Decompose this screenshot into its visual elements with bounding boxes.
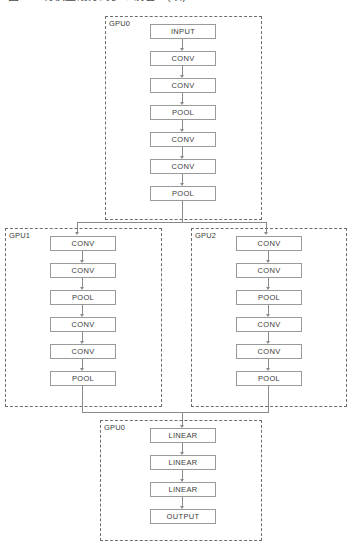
connector-arrow <box>182 39 183 48</box>
connector-arrowhead <box>180 506 184 509</box>
connector-arrowhead <box>180 156 184 159</box>
connector-arrowhead <box>80 368 84 371</box>
layer-node-conv[interactable]: CONV <box>50 317 116 332</box>
layer-node-conv[interactable]: CONV <box>236 317 302 332</box>
layer-node-pool[interactable]: POOL <box>150 186 216 201</box>
layer-node-linear[interactable]: LINEAR <box>150 428 216 443</box>
layer-node-conv[interactable]: CONV <box>150 132 216 147</box>
connector-arrowhead <box>180 75 184 78</box>
connector-arrow <box>182 120 183 129</box>
connector-arrowhead <box>266 341 270 344</box>
layer-node-input[interactable]: INPUT <box>150 24 216 39</box>
connector-arrowhead <box>180 102 184 105</box>
layer-node-conv[interactable]: CONV <box>150 159 216 174</box>
connector-arrow <box>182 174 183 183</box>
connector-arrow <box>182 66 183 75</box>
figure-caption-text: 图 7-7 将模型划分到多个设备上(续) <box>8 0 186 3</box>
layer-node-conv[interactable]: CONV <box>50 236 116 251</box>
layer-node-conv[interactable]: CONV <box>50 344 116 359</box>
connector-arrowhead <box>266 368 270 371</box>
connector-arrowhead <box>266 314 270 317</box>
layer-node-conv[interactable]: CONV <box>50 263 116 278</box>
connector-arrow <box>182 443 183 452</box>
connector-arrow <box>82 332 83 341</box>
connector-arrow <box>82 359 83 368</box>
connector-arrow <box>82 305 83 314</box>
layer-node-pool[interactable]: POOL <box>50 290 116 305</box>
gpu-group-label: GPU2 <box>195 231 216 240</box>
connector-merge-left <box>82 386 83 412</box>
connector-arrow <box>182 497 183 506</box>
connector-split-stem <box>182 201 183 222</box>
connector-arrowhead <box>80 341 84 344</box>
gpu-group-label: GPU0 <box>104 423 125 432</box>
layer-node-output[interactable]: OUTPUT <box>150 509 216 524</box>
connector-arrow <box>182 93 183 102</box>
layer-node-linear[interactable]: LINEAR <box>150 482 216 497</box>
layer-node-conv[interactable]: CONV <box>150 51 216 66</box>
gpu-group-label: GPU1 <box>9 231 30 240</box>
connector-merge-right <box>268 386 269 412</box>
connector-arrowhead <box>80 287 84 290</box>
connector-split-bus <box>77 222 266 223</box>
diagram-canvas: 图 7-7 将模型划分到多个设备上(续) GPU0 INPUT CONV CON… <box>0 0 353 550</box>
connector-arrowhead <box>266 287 270 290</box>
connector-arrowhead <box>180 48 184 51</box>
layer-node-pool[interactable]: POOL <box>150 105 216 120</box>
connector-arrowhead <box>80 314 84 317</box>
layer-node-linear[interactable]: LINEAR <box>150 455 216 470</box>
layer-node-conv[interactable]: CONV <box>236 344 302 359</box>
gpu-group-label: GPU0 <box>109 19 130 28</box>
layer-node-conv[interactable]: CONV <box>150 78 216 93</box>
connector-arrow <box>268 251 269 260</box>
connector-merge-bus <box>82 412 269 413</box>
connector-arrowhead <box>180 452 184 455</box>
layer-node-pool[interactable]: POOL <box>236 371 302 386</box>
connector-arrow <box>182 470 183 479</box>
connector-arrowhead <box>266 260 270 263</box>
layer-node-conv[interactable]: CONV <box>236 263 302 278</box>
connector-arrow <box>268 359 269 368</box>
connector-arrowhead <box>180 479 184 482</box>
figure-caption: 图 7-7 将模型划分到多个设备上(续) <box>0 0 353 11</box>
layer-node-conv[interactable]: CONV <box>236 236 302 251</box>
connector-arrowhead <box>180 183 184 186</box>
connector-arrowhead <box>180 129 184 132</box>
connector-arrow <box>268 278 269 287</box>
layer-node-pool[interactable]: POOL <box>236 290 302 305</box>
connector-arrow <box>182 147 183 156</box>
connector-arrow <box>82 278 83 287</box>
connector-arrow <box>268 305 269 314</box>
layer-node-pool[interactable]: POOL <box>50 371 116 386</box>
connector-arrow <box>268 332 269 341</box>
connector-arrowhead <box>80 260 84 263</box>
connector-arrow <box>82 251 83 260</box>
